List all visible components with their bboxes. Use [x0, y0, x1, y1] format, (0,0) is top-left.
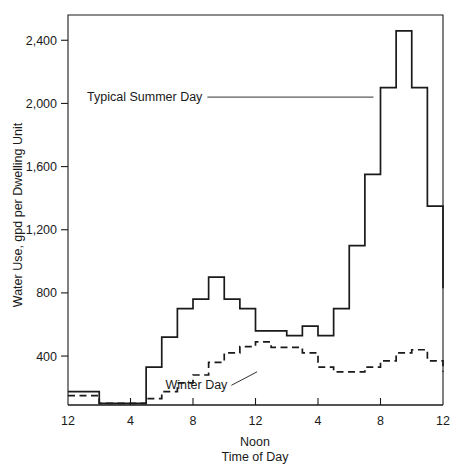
- x-tick-label: 12: [249, 414, 263, 428]
- series-label-winter-day: Winter Day: [166, 378, 229, 392]
- series-label-typical-summer-day: Typical Summer Day: [87, 90, 203, 104]
- y-tick-label: 2,000: [26, 97, 57, 111]
- water-use-chart-figure: 4008001,2001,6002,0002,400 1248124812 Ty…: [0, 0, 466, 476]
- y-tick-label: 2,400: [26, 34, 57, 48]
- y-tick-label: 800: [36, 286, 57, 300]
- x-tick-label: 8: [190, 414, 197, 428]
- x-axis-noon-label: Noon: [240, 435, 270, 449]
- y-tick-label: 1,200: [26, 223, 57, 237]
- x-tick-label: 12: [61, 414, 75, 428]
- x-tick-label: 4: [315, 414, 322, 428]
- y-tick-label: 400: [36, 350, 57, 364]
- x-tick-label: 12: [436, 414, 450, 428]
- y-axis-title: Water Use, gpd per Dwelling Unit: [11, 122, 25, 307]
- x-axis-title: Time of Day: [222, 450, 290, 464]
- x-tick-label: 8: [377, 414, 384, 428]
- y-tick-label: 1,600: [26, 160, 57, 174]
- chart-canvas: 4008001,2001,6002,0002,400 1248124812 Ty…: [0, 0, 466, 476]
- x-tick-label: 4: [127, 414, 134, 428]
